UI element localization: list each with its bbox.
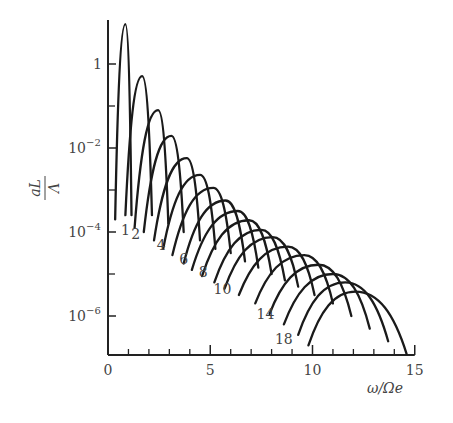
curve-18	[308, 292, 406, 354]
curve-labels: 12468101418	[121, 222, 293, 347]
curve-label: 1	[121, 222, 130, 238]
curve-label: 4	[157, 237, 166, 253]
curve-label: 6	[179, 251, 188, 267]
x-axis-title: ω/Ωe	[367, 380, 403, 396]
x-tick-label: 0	[104, 362, 113, 378]
y-tick-exponent: −6	[86, 305, 101, 316]
y-tick-exponent: −4	[86, 221, 101, 232]
axes: 051015110−210−410−6	[68, 20, 423, 378]
y-axis-title-numerator: aL	[27, 179, 43, 197]
curves	[115, 24, 406, 354]
y-tick-exponent: −2	[86, 137, 101, 148]
y-axis-title-denominator: Λ	[46, 183, 62, 195]
curve-label: 8	[199, 264, 208, 280]
y-tick-label: 10	[68, 224, 86, 240]
curve-6	[163, 175, 215, 249]
y-tick-label: 10	[68, 140, 86, 156]
x-tick-label: 10	[304, 362, 322, 378]
curve-1	[115, 24, 131, 219]
curve-label: 2	[131, 226, 140, 242]
curve-label: 18	[275, 331, 293, 347]
chart: 051015110−210−410−6 12468101418 aL Λ ω/Ω…	[0, 0, 453, 423]
curve-label: 10	[214, 281, 232, 297]
x-tick-label: 5	[206, 362, 215, 378]
y-tick-label: 10	[68, 308, 86, 324]
curve-14	[255, 255, 333, 303]
x-tick-label: 15	[406, 362, 424, 378]
y-axis-title: aL Λ	[27, 176, 62, 200]
y-tick-label: 1	[93, 56, 102, 72]
curve-label: 14	[257, 306, 275, 322]
